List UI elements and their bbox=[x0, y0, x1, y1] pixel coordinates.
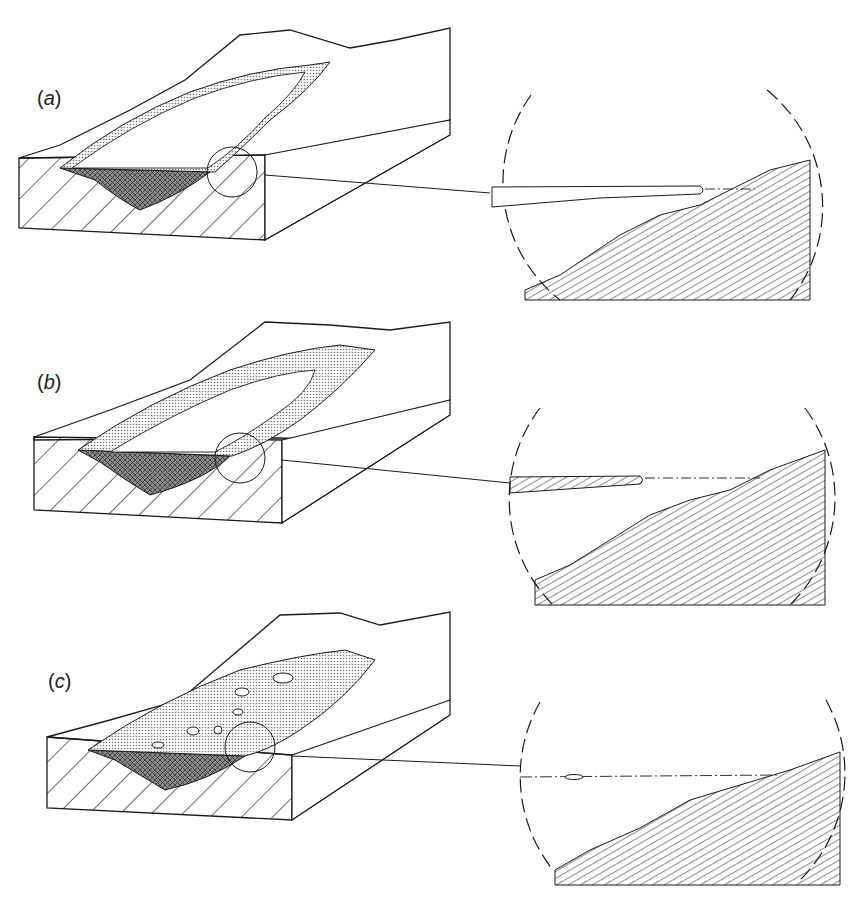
panel-a bbox=[19, 28, 823, 300]
magnified-inset-c bbox=[520, 700, 845, 885]
panel-b bbox=[34, 322, 835, 605]
block-diagram-b bbox=[34, 322, 510, 523]
panel-label-a: (a) bbox=[37, 87, 61, 110]
diagram-canvas bbox=[0, 0, 864, 908]
panel-label-c: (c) bbox=[48, 670, 71, 693]
panel-c bbox=[47, 612, 845, 885]
block-diagram-a bbox=[19, 28, 490, 240]
panel-label-b: (b) bbox=[37, 371, 61, 394]
block-diagram-c bbox=[47, 612, 520, 820]
magnified-inset-b bbox=[509, 408, 835, 605]
magnified-inset-a bbox=[492, 90, 823, 300]
